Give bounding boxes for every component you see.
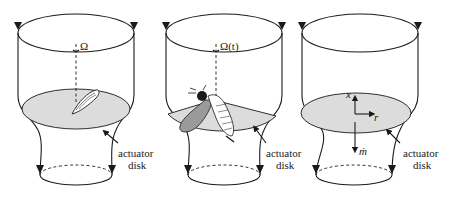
flow-arrow-icon [256, 165, 264, 174]
flow-arrow-icon [278, 22, 286, 30]
actuator-disk [301, 93, 411, 133]
outlet-ellipse-back [40, 165, 112, 175]
flow-arrow-icon [162, 22, 170, 30]
disk-label-line2: disk [128, 159, 147, 171]
outlet-ellipse-front [40, 175, 112, 185]
inlet-ellipse [302, 14, 418, 52]
rotation-label: Ω(t) [220, 40, 239, 53]
actuator-disk-diagram: Ω actuator disk Ω(t) [0, 0, 450, 207]
flow-arrow-icon [14, 22, 22, 30]
rotation-label: Ω [80, 40, 88, 52]
disk-label-line1: actuator [266, 147, 302, 159]
disk-label-line2: disk [276, 159, 295, 171]
flow-arrow-icon [414, 22, 422, 30]
disk-pointer [105, 132, 118, 143]
outlet-ellipse-front [316, 175, 392, 185]
flow-arrow-icon [36, 165, 44, 174]
mass-flow-label: ṁ [359, 145, 367, 157]
x-axis-label: x [345, 88, 351, 100]
disk-label-line1: actuator [403, 147, 439, 159]
panel-insect: Ω(t) actuator disk [162, 14, 302, 185]
flow-arrow-icon [130, 22, 138, 30]
disk-label-line1: actuator [118, 147, 154, 159]
outlet-ellipse-back [316, 165, 392, 175]
outlet-ellipse-front [188, 175, 260, 185]
flow-arrow-icon [388, 165, 396, 174]
flow-arrow-icon [108, 165, 116, 174]
flow-arrow-icon [312, 165, 320, 174]
outlet-ellipse-back [188, 165, 260, 175]
disk-label-line2: disk [413, 159, 432, 171]
flow-arrow-icon [184, 165, 192, 174]
streamtube-left [166, 33, 189, 175]
flow-arrow-icon [298, 22, 306, 30]
panel-axes: x r ṁ actuator disk [298, 14, 439, 185]
r-axis-label: r [374, 111, 379, 123]
panel-rotor: Ω actuator disk [14, 14, 154, 185]
